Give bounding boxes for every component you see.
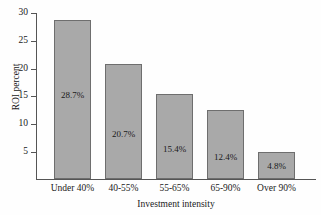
x-axis-line <box>36 179 316 180</box>
bar-65-90[interactable]: 12.4% <box>207 110 244 179</box>
y-tick-label: 15 <box>0 91 28 101</box>
y-tick-label: 20 <box>0 64 28 74</box>
bar-value-label: 12.4% <box>208 153 243 162</box>
bar-40-55[interactable]: 20.7% <box>105 64 142 179</box>
cat-label-over-90: Over 90% <box>242 183 312 194</box>
plot-area: 28.7% 20.7% 15.4% 12.4% 4.8% <box>36 13 316 179</box>
y-tick-label: 10 <box>0 119 28 129</box>
bar-over-90[interactable]: 4.8% <box>258 152 295 179</box>
bar-chart-figure: ROI percent 30 25 20 15 10 5 <box>0 0 321 215</box>
x-axis-category-labels: Under 40% 40-55% 55-65% 65-90% Over 90% <box>36 183 316 197</box>
bar-55-65[interactable]: 15.4% <box>156 94 193 179</box>
y-tick-label: 25 <box>0 36 28 46</box>
y-tick-label: 30 <box>0 8 28 18</box>
y-tick-label: 5 <box>0 147 28 157</box>
bar-under-40[interactable]: 28.7% <box>54 20 91 179</box>
bar-value-label: 4.8% <box>259 162 294 171</box>
bar-value-label: 28.7% <box>55 91 90 100</box>
bar-value-label: 15.4% <box>157 145 192 154</box>
x-axis-title: Investment intensity <box>36 199 316 210</box>
bar-value-label: 20.7% <box>106 130 141 139</box>
